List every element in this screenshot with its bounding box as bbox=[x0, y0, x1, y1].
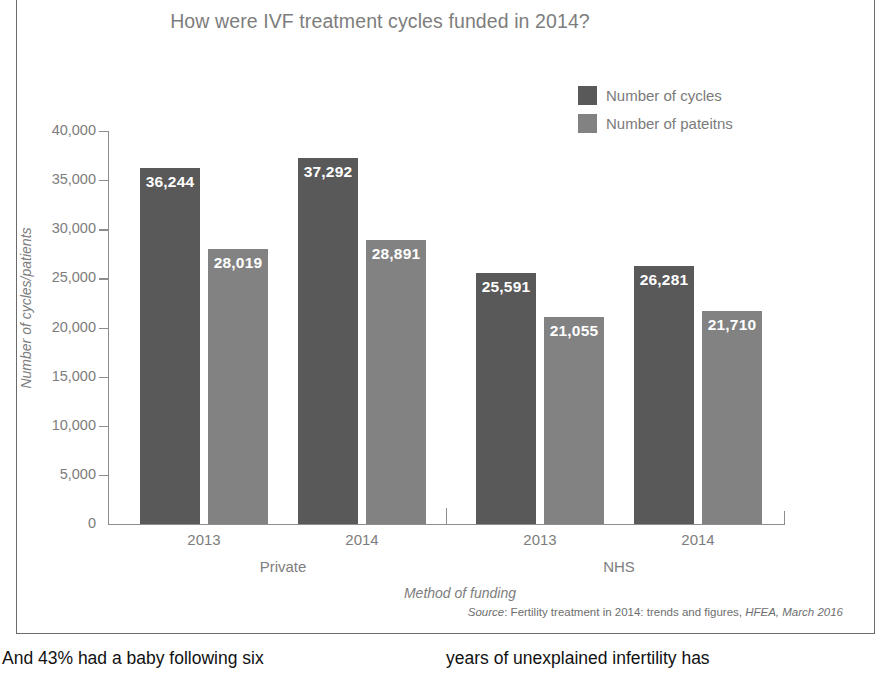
x-tick-label: 2014 bbox=[638, 531, 758, 548]
bar: 36,244 bbox=[140, 168, 200, 524]
y-tick-label: 25,000 bbox=[24, 269, 96, 285]
x-group-label: Private bbox=[193, 558, 373, 575]
bar-value-label: 37,292 bbox=[298, 163, 358, 181]
source-note: Source: Fertility treatment in 2014: tre… bbox=[468, 606, 843, 618]
x-tick-label: 2013 bbox=[480, 531, 600, 548]
bar-value-label: 21,710 bbox=[702, 316, 762, 334]
bar-value-label: 25,591 bbox=[476, 278, 536, 296]
source-main: Fertility treatment in 2014: trends and … bbox=[511, 606, 746, 618]
bar-value-label: 26,281 bbox=[634, 271, 694, 289]
bar-value-label: 28,019 bbox=[208, 254, 268, 272]
bar: 26,281 bbox=[634, 266, 694, 524]
y-tick-label: 35,000 bbox=[24, 171, 96, 187]
y-tick-label: 30,000 bbox=[24, 220, 96, 236]
y-tick-label: 0 bbox=[24, 515, 96, 531]
y-tick-label: 40,000 bbox=[24, 122, 96, 138]
article-body-text: And 43% had a baby following six years o… bbox=[0, 648, 892, 689]
bar: 21,055 bbox=[544, 317, 604, 524]
bar-value-label: 36,244 bbox=[140, 173, 200, 191]
bar: 25,591 bbox=[476, 273, 536, 524]
bar-value-label: 28,891 bbox=[366, 245, 426, 263]
body-paragraph-right: years of unexplained infertility has bbox=[446, 648, 874, 670]
x-tick-label: 2014 bbox=[302, 531, 422, 548]
body-column-left: And 43% had a baby following six bbox=[0, 648, 446, 689]
body-paragraph-left: And 43% had a baby following six bbox=[2, 648, 400, 670]
bar: 37,292 bbox=[298, 158, 358, 524]
x-group-label: NHS bbox=[529, 558, 709, 575]
y-tick-label: 20,000 bbox=[24, 319, 96, 335]
plot-wrapper: 40,00035,00030,00025,00020,00015,00010,0… bbox=[0, 0, 859, 640]
x-axis-title: Method of funding bbox=[350, 585, 570, 601]
bar: 28,019 bbox=[208, 249, 268, 524]
body-column-right: years of unexplained infertility has bbox=[446, 648, 892, 689]
bar-value-label: 21,055 bbox=[544, 322, 604, 340]
y-axis-title: Number of cycles/patients bbox=[18, 208, 34, 408]
bars-layer: 36,24428,01937,29228,89125,59121,05526,2… bbox=[108, 131, 785, 524]
y-tick-label: 10,000 bbox=[24, 417, 96, 433]
y-tick-label: 15,000 bbox=[24, 368, 96, 384]
x-tick-label: 2013 bbox=[144, 531, 264, 548]
source-italic: HFEA, March 2016 bbox=[745, 606, 843, 618]
source-prefix: Source bbox=[468, 606, 504, 618]
bar: 28,891 bbox=[366, 240, 426, 524]
y-tick-label: 5,000 bbox=[24, 466, 96, 482]
bar: 21,710 bbox=[702, 311, 762, 524]
